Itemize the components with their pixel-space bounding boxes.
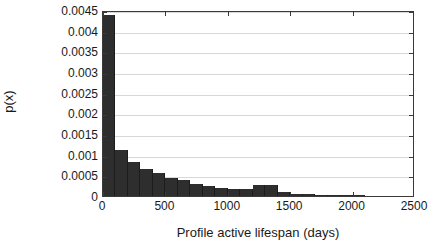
histogram-bar [265,185,277,196]
histogram-bar [240,189,252,196]
x-tick-mark [165,12,166,16]
histogram-bar [403,196,414,197]
histogram-bar [378,196,390,197]
y-tick-mark [409,115,413,116]
gridline [103,12,413,13]
gridline [103,74,413,75]
y-axis-tick-labels: 00.00050.0010.00150.0020.00250.0030.0035… [28,0,98,210]
histogram-bar [140,169,152,196]
y-tick-label: 0.004 [32,26,98,38]
histogram-bar [103,15,115,196]
y-tick-mark [103,74,107,75]
histogram-bar [328,195,340,196]
y-tick-mark [103,157,107,158]
histogram-bar [353,195,365,196]
histogram-bar [190,184,202,196]
y-tick-mark [409,95,413,96]
x-tick-label: 2500 [401,200,428,212]
y-tick-label: 0.0045 [32,5,98,17]
x-tick-mark [290,12,291,16]
y-tick-mark [103,136,107,137]
y-tick-mark [409,74,413,75]
histogram-bar [278,192,290,196]
x-tick-mark [353,12,354,16]
gridline [103,33,413,34]
x-tick-mark [290,192,291,196]
histogram-bar [178,180,190,196]
histogram-bar [253,185,265,196]
y-tick-label: 0 [32,191,98,203]
plot-area [102,11,414,197]
y-tick-label: 0.002 [32,108,98,120]
x-tick-label: 500 [154,200,174,212]
y-tick-mark [103,53,107,54]
x-axis-label: Profile active lifespan (days) [102,225,414,240]
y-tick-label: 0.0015 [32,129,98,141]
histogram-bar [203,186,215,196]
histogram-bar [315,195,327,196]
y-tick-label: 0.0025 [32,88,98,100]
x-tick-mark [353,192,354,196]
x-tick-label: 1500 [276,200,303,212]
y-tick-label: 0.001 [32,150,98,162]
histogram-bar [215,188,227,196]
y-tick-mark [103,177,107,178]
histogram-figure: p(x) 00.00050.0010.00150.0020.00250.0030… [0,0,434,246]
y-tick-mark [409,177,413,178]
x-tick-mark [228,12,229,16]
y-tick-mark [103,33,107,34]
y-tick-mark [409,157,413,158]
y-tick-mark [103,95,107,96]
histogram-bar [290,194,302,196]
x-tick-mark [228,192,229,196]
gridline [103,95,413,96]
histogram-bar [390,196,402,197]
histogram-bar [153,173,165,196]
histogram-bar [228,189,240,196]
y-tick-label: 0.0005 [32,170,98,182]
histogram-bar [165,178,177,196]
y-tick-label: 0.003 [32,67,98,79]
gridline [103,157,413,158]
y-tick-mark [409,33,413,34]
x-tick-mark [103,12,104,16]
y-tick-mark [409,136,413,137]
x-tick-mark [103,192,104,196]
histogram-bar [303,194,315,196]
histogram-bar [365,196,377,197]
y-tick-mark [409,53,413,54]
x-tick-label: 2000 [338,200,365,212]
histogram-bar [340,195,352,196]
y-tick-mark [103,115,107,116]
x-tick-mark [165,192,166,196]
gridline [103,136,413,137]
x-tick-label: 1000 [213,200,240,212]
histogram-bar [115,150,127,196]
gridline [103,115,413,116]
gridline [103,53,413,54]
histogram-bar [128,162,140,196]
y-tick-mark [409,12,413,13]
y-axis-label: p(x) [1,78,16,126]
y-tick-label: 0.0035 [32,46,98,58]
x-tick-label: 0 [99,200,106,212]
